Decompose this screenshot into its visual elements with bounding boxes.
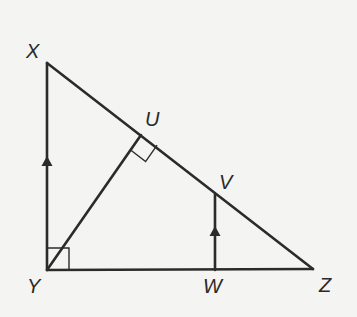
triangle-figure: X Y Z U V W <box>0 0 357 317</box>
right-angle-marker-u <box>131 145 158 161</box>
label-z: Z <box>318 274 332 296</box>
segment-xz <box>47 63 313 269</box>
label-y: Y <box>27 275 42 297</box>
geometry-diagram: X Y Z U V W <box>0 0 357 317</box>
parallel-arrow-xy-icon <box>42 156 53 166</box>
label-x: X <box>25 40 40 62</box>
label-v: V <box>219 171 234 193</box>
label-w: W <box>203 275 224 297</box>
segment-yu <box>47 135 141 270</box>
label-u: U <box>145 108 160 130</box>
parallel-arrow-vw-icon <box>210 226 221 236</box>
segment-yz <box>47 269 313 270</box>
